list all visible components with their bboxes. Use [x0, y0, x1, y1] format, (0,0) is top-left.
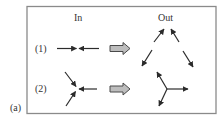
row1-out-arrows	[142, 29, 193, 67]
arrow-up-right-icon	[66, 92, 76, 107]
column-header-in: In	[74, 13, 82, 23]
arrow-down-left-icon	[142, 50, 152, 66]
arrow-down-right-icon	[183, 51, 193, 67]
arrow-up-right-icon	[154, 29, 164, 42]
block-arrow-icon	[110, 83, 130, 95]
panel-label: (a)	[10, 103, 21, 113]
row-label-1: (1)	[35, 44, 47, 54]
diagram-frame	[27, 7, 216, 114]
row2-out-arrows	[157, 72, 188, 106]
diagram-canvas	[0, 0, 224, 123]
column-header-out: Out	[158, 13, 173, 23]
row2-in-arrows	[65, 72, 97, 106]
arrow-down-right-icon	[65, 72, 76, 87]
arrow-down-left-icon	[159, 89, 167, 106]
row-label-2: (2)	[35, 84, 47, 94]
block-arrow-icon	[110, 43, 130, 55]
arrow-up-left-icon	[171, 29, 179, 42]
arrow-up-left-icon	[157, 72, 167, 89]
